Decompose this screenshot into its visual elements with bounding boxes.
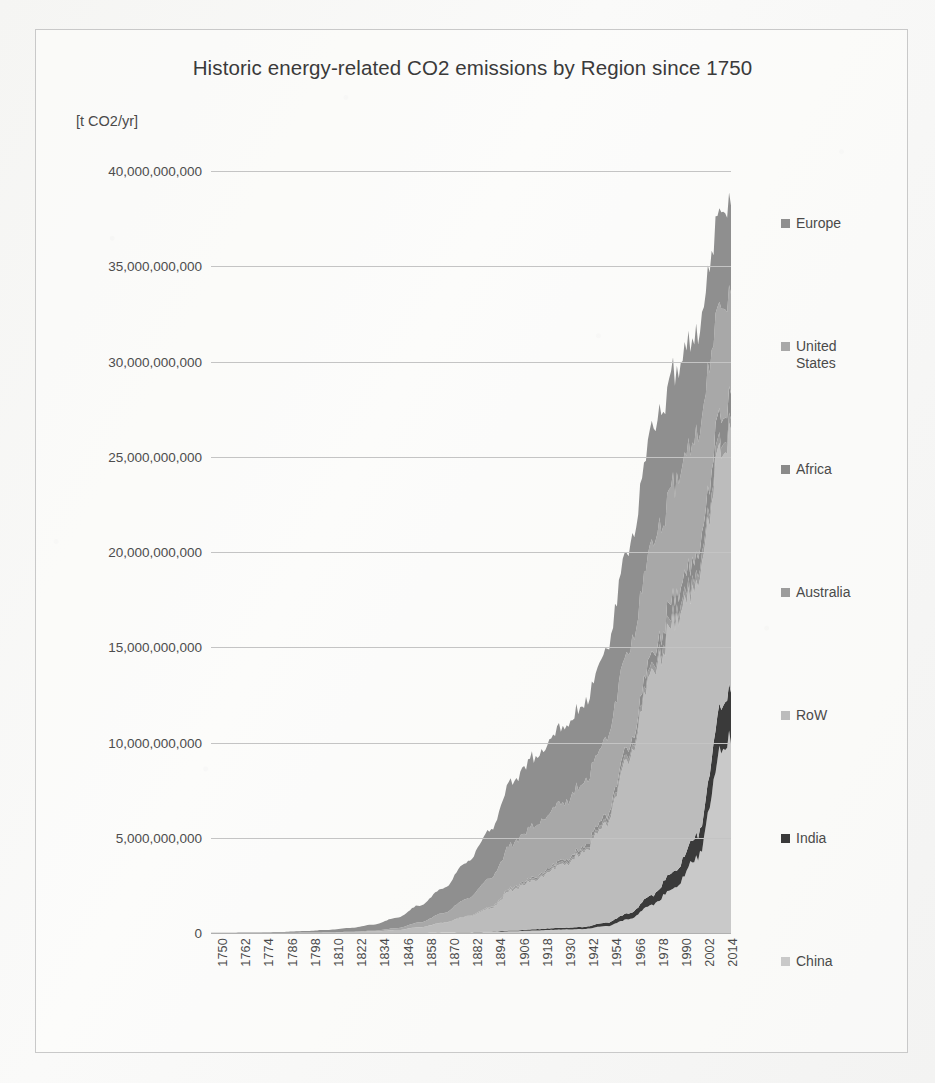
gridline xyxy=(211,457,731,458)
x-axis-tick-label: 1762 xyxy=(239,938,253,967)
legend-item-europe[interactable]: Europe xyxy=(781,215,841,232)
x-axis-tick-label: 1858 xyxy=(425,938,439,967)
legend-label: Australia xyxy=(796,584,850,601)
x-axis-tick-label: 1774 xyxy=(262,938,276,967)
legend-label: India xyxy=(796,830,826,847)
x-axis-tick-label: 1846 xyxy=(402,938,416,967)
x-axis-tick-label: 2014 xyxy=(726,938,740,967)
y-axis-tick-label: 5,000,000,000 xyxy=(116,830,202,845)
x-axis-tick-label: 1942 xyxy=(587,938,601,967)
legend-item-row[interactable]: RoW xyxy=(781,707,827,724)
x-axis-tick-label: 1930 xyxy=(564,938,578,967)
y-axis-tick-label: 35,000,000,000 xyxy=(108,259,202,274)
x-axis-tick-label: 1822 xyxy=(355,938,369,967)
x-axis: 1750176217741786179818101822183418461858… xyxy=(211,938,731,1058)
gridline xyxy=(211,266,731,267)
legend-label: Europe xyxy=(796,215,841,232)
chart-container: Historic energy-related CO2 emissions by… xyxy=(35,29,908,1053)
gridline xyxy=(211,647,731,648)
legend-label: United States xyxy=(796,338,836,372)
y-axis-tick-label: 10,000,000,000 xyxy=(108,735,202,750)
x-axis-tick-label: 1798 xyxy=(309,938,323,967)
legend-swatch-icon xyxy=(781,957,790,966)
x-axis-tick-label: 1750 xyxy=(216,938,230,967)
plot-area: 40,000,000,00035,000,000,00030,000,000,0… xyxy=(211,171,731,933)
y-axis-tick-label: 30,000,000,000 xyxy=(108,354,202,369)
legend-item-india[interactable]: India xyxy=(781,830,826,847)
legend-label: China xyxy=(796,953,833,970)
x-axis-tick-label: 1870 xyxy=(448,938,462,967)
x-axis-tick-label: 1786 xyxy=(286,938,300,967)
legend-item-africa[interactable]: Africa xyxy=(781,461,832,478)
x-axis-tick-label: 1966 xyxy=(634,938,648,967)
x-axis-tick-label: 1978 xyxy=(657,938,671,967)
x-axis-tick-label: 1882 xyxy=(471,938,485,967)
chart-legend: EuropeUnited StatesAfricaAustraliaRoWInd… xyxy=(781,30,909,1054)
gridline xyxy=(211,171,731,172)
legend-label: Africa xyxy=(796,461,832,478)
gridline xyxy=(211,552,731,553)
legend-item-united-states[interactable]: United States xyxy=(781,338,836,372)
gridline xyxy=(211,362,731,363)
legend-swatch-icon xyxy=(781,588,790,597)
legend-item-china[interactable]: China xyxy=(781,953,833,970)
y-axis-unit-label: [t CO2/yr] xyxy=(76,113,138,129)
x-axis-tick-label: 1954 xyxy=(610,938,624,967)
legend-swatch-icon xyxy=(781,219,790,228)
y-axis-tick-label: 40,000,000,000 xyxy=(108,164,202,179)
gridline xyxy=(211,838,731,839)
legend-swatch-icon xyxy=(781,342,790,351)
gridline xyxy=(211,933,731,934)
x-axis-tick-label: 1906 xyxy=(518,938,532,967)
x-axis-tick-label: 1990 xyxy=(680,938,694,967)
chart-title: Historic energy-related CO2 emissions by… xyxy=(36,56,909,80)
legend-label: RoW xyxy=(796,707,827,724)
x-axis-tick-label: 2002 xyxy=(703,938,717,967)
y-axis-tick-label: 25,000,000,000 xyxy=(108,449,202,464)
x-axis-tick-label: 1918 xyxy=(541,938,555,967)
x-axis-tick-label: 1834 xyxy=(378,938,392,967)
y-axis-tick-label: 20,000,000,000 xyxy=(108,545,202,560)
legend-swatch-icon xyxy=(781,834,790,843)
gridline xyxy=(211,743,731,744)
x-axis-tick-label: 1894 xyxy=(494,938,508,967)
legend-swatch-icon xyxy=(781,711,790,720)
y-axis-tick-label: 15,000,000,000 xyxy=(108,640,202,655)
y-axis-tick-label: 0 xyxy=(194,926,202,941)
x-axis-tick-label: 1810 xyxy=(332,938,346,967)
legend-swatch-icon xyxy=(781,465,790,474)
legend-item-australia[interactable]: Australia xyxy=(781,584,850,601)
